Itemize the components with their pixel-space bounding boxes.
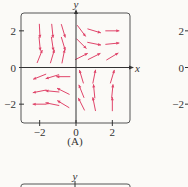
bottom-y-axis-label: y xyxy=(72,170,78,182)
y-tick-label: 2 xyxy=(11,25,17,37)
vector-arrowhead xyxy=(116,29,119,32)
y-tick-label: 0 xyxy=(11,62,17,74)
panel-label: (A) xyxy=(67,135,83,148)
right-panel-y-ticks: 20−2 xyxy=(172,25,188,110)
panel-a: x y −202 20−2 (A) xyxy=(4,0,140,148)
vector-arrowhead xyxy=(33,103,36,106)
right-y-tick-label: 0 xyxy=(179,62,185,74)
y-axis-label: y xyxy=(73,0,79,10)
right-y-tick-label: 2 xyxy=(179,25,185,37)
figure: x y −202 20−2 (A) 20−2 y xyxy=(0,0,188,187)
x-tick-label: −2 xyxy=(34,126,46,138)
x-axis-arrowhead xyxy=(129,66,134,70)
y-tick-label: −2 xyxy=(4,98,16,110)
right-y-tick-label: −2 xyxy=(172,98,184,110)
x-tick-label: 2 xyxy=(110,126,116,138)
x-axis-label: x xyxy=(134,62,140,74)
bottom-panel: y xyxy=(21,170,130,187)
